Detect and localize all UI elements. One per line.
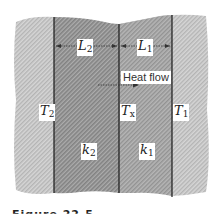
label-L1-main: L (138, 38, 147, 53)
label-k2-main: k (82, 142, 90, 157)
label-k1-sub: 1 (148, 148, 154, 158)
label-T2-main: T (40, 103, 49, 118)
label-k2: k2 (81, 143, 97, 160)
label-T2-sub: 2 (49, 109, 55, 119)
label-Tx: Tx (120, 104, 136, 121)
label-T1-main: T (174, 103, 183, 118)
label-L1: L1 (137, 39, 153, 56)
label-T1-sub: 1 (183, 109, 189, 119)
label-Tx-sub: x (130, 109, 135, 119)
label-L2-sub: 2 (87, 44, 93, 54)
label-T2: T2 (39, 104, 55, 121)
label-k1: k1 (139, 143, 155, 160)
label-T1: T1 (173, 104, 189, 121)
label-L2: L2 (77, 39, 93, 56)
composite-wall-diagram: L2 L1 Heat flow T2 Tx T1 k2 k1 Figure 22… (0, 0, 222, 219)
label-k1-main: k (140, 142, 148, 157)
label-k2-sub: 2 (90, 148, 96, 158)
label-L1-sub: 1 (147, 44, 153, 54)
label-Tx-main: T (121, 103, 130, 118)
label-L2-main: L (78, 38, 87, 53)
heat-flow-label: Heat flow (121, 71, 171, 84)
